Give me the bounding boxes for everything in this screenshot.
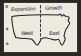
heading-expansion: Expansion xyxy=(11,6,36,12)
sketch-frame: Expansion Growth West East xyxy=(0,0,81,56)
heading-growth: Growth xyxy=(45,5,63,11)
map-board: Expansion Growth West East xyxy=(4,3,77,52)
region-label-west: West xyxy=(21,31,33,36)
bottom-left-dot-marker xyxy=(6,43,8,45)
region-label-east: East xyxy=(49,31,60,36)
mid-left-dot-marker xyxy=(6,28,8,30)
paper-card: Expansion Growth West East xyxy=(3,2,78,53)
top-left-dot-marker xyxy=(6,6,8,8)
